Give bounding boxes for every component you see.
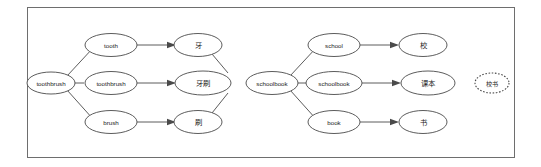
node-tgt-xiao[interactable]: 校 [399, 34, 447, 57]
node-label: schoolbook [256, 80, 288, 87]
node-seg-toothbrush[interactable]: toothbrush [85, 72, 137, 95]
node-label: school [325, 42, 343, 49]
word-alignment-diagram: toothbrush tooth toothbrush brush 牙 [0, 0, 541, 167]
node-tgt-shu[interactable]: 书 [399, 111, 447, 134]
node-label: 校书 [486, 80, 498, 88]
schoolbook-group: schoolbook school schoolbook book 校 [246, 34, 509, 134]
node-label: toothbrush [96, 80, 126, 87]
node-tgt-shua[interactable]: 刷 [174, 111, 222, 134]
edge-ya-to-yashua [212, 54, 228, 73]
node-src-toothbrush[interactable]: toothbrush [27, 72, 75, 94]
arrowhead-schoolbook-to-keben [392, 80, 401, 86]
node-src-schoolbook[interactable]: schoolbook [246, 72, 298, 95]
toothbrush-group: toothbrush tooth toothbrush brush 牙 [27, 34, 231, 134]
arrowhead-school-to-xiao [390, 42, 399, 48]
node-label: toothbrush [36, 80, 66, 87]
node-label: 牙刷 [196, 79, 210, 88]
node-seg-book[interactable]: book [308, 111, 360, 134]
node-seg-schoolbook[interactable]: schoolbook [306, 72, 362, 95]
edge-src-to-tooth [67, 48, 93, 76]
node-label: schoolbook [318, 80, 350, 87]
node-tgt-ya[interactable]: 牙 [174, 34, 222, 57]
edge-src-to-school [290, 48, 316, 76]
edge-src-to-book [290, 90, 316, 119]
arrowhead-book-to-shu [390, 119, 399, 125]
edge-src-to-brush [67, 90, 93, 119]
node-label: 刷 [195, 118, 202, 127]
node-label: book [327, 119, 341, 126]
node-tgt-xiaoshu-dotted[interactable]: 校书 [475, 73, 509, 93]
node-seg-school[interactable]: school [308, 34, 360, 57]
node-label: 牙 [195, 41, 202, 50]
node-seg-tooth[interactable]: tooth [85, 34, 137, 57]
node-label: 书 [420, 118, 428, 127]
node-tgt-yashua[interactable]: 牙刷 [175, 71, 231, 95]
edge-yashua-to-shua [212, 93, 228, 113]
node-tgt-keben[interactable]: 课本 [401, 71, 455, 95]
node-seg-brush[interactable]: brush [85, 111, 137, 134]
node-label: 课本 [421, 79, 436, 88]
node-label: 校 [420, 41, 428, 50]
node-label: brush [103, 119, 119, 126]
node-label: tooth [104, 42, 118, 49]
